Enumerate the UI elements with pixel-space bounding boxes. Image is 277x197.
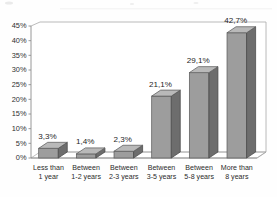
- y-tick-label: 30%: [12, 65, 27, 74]
- y-tick-label: 15%: [12, 109, 27, 118]
- y-tick-label: 25%: [12, 80, 27, 89]
- bar-value-label: 2,3%: [114, 135, 132, 144]
- bar-side-face: [171, 90, 180, 158]
- x-category-label: Between1-2 years: [71, 164, 101, 181]
- bar-front-face: [76, 154, 96, 158]
- y-tick-label: 20%: [12, 95, 27, 104]
- bar-value-label: 21,1%: [149, 80, 172, 89]
- bar-chart: 0%5%10%15%20%25%30%35%40%45% 3,3%1,4%2,3…: [0, 0, 277, 197]
- x-category-label: Between3-5 years: [147, 164, 177, 181]
- y-tick-label: 5%: [16, 139, 27, 148]
- bar-front-face: [39, 148, 59, 158]
- bar-front-face: [227, 33, 247, 158]
- bar-value-label: 1,4%: [76, 137, 94, 146]
- x-category-label: Less than1 year: [33, 164, 64, 181]
- y-tick-label: 35%: [12, 51, 27, 60]
- y-tick-label: 0%: [16, 153, 27, 162]
- bar: [189, 67, 218, 158]
- bar-side-face: [247, 27, 256, 158]
- x-axis-category-labels: Less than1 yearBetween1-2 yearsBetween2-…: [33, 164, 253, 181]
- y-tick-label: 40%: [12, 36, 27, 45]
- x-category-label: Between5-8 years: [184, 164, 214, 181]
- bar: [227, 27, 256, 158]
- y-tick-label: 10%: [12, 124, 27, 133]
- x-category-label: Between2-3 years: [109, 164, 139, 181]
- bar-front-face: [114, 151, 134, 158]
- scan-artifacts: [5, 1, 272, 9]
- chart-canvas: 0%5%10%15%20%25%30%35%40%45% 3,3%1,4%2,3…: [0, 0, 277, 197]
- bar-front-face: [189, 73, 209, 158]
- bar-front-face: [152, 96, 172, 158]
- bar-value-label: 3,3%: [38, 132, 56, 141]
- y-axis-tick-labels: 0%5%10%15%20%25%30%35%40%45%: [12, 21, 27, 162]
- bar-side-face: [209, 67, 218, 158]
- y-tick-label: 45%: [12, 21, 27, 30]
- bar-value-label: 42,7%: [224, 16, 247, 25]
- bar: [152, 90, 181, 158]
- x-category-label: More than8 years: [221, 164, 253, 181]
- bar-value-label: 29,1%: [187, 56, 210, 65]
